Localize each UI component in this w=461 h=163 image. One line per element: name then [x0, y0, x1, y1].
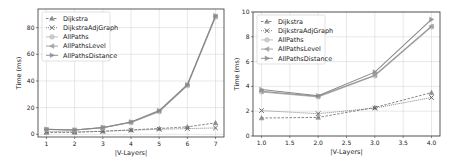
chart-1: 1234567020406080|V-Layers|Time (ms)Dijks…: [15, 9, 224, 157]
x-tick-label: 2: [73, 140, 77, 147]
x-tick-label: 2.5: [342, 139, 352, 146]
x-tick-label: 5: [157, 140, 161, 147]
x-axis-label: |V-Layers|: [330, 148, 362, 156]
y-tick-label: 6: [246, 58, 250, 65]
x-tick-label: 1.5: [285, 139, 295, 146]
legend-label: AllPathsDistance: [278, 55, 332, 63]
x-tick-label: 3: [101, 140, 105, 147]
x-tick-label: 4: [129, 140, 133, 147]
legend-label: Dijkstra: [278, 18, 303, 26]
y-axis-label: Time (ms): [15, 57, 23, 91]
y-tick-label: 0: [246, 132, 250, 139]
y-tick-label: 4: [246, 82, 250, 89]
x-tick-label: 4.0: [427, 139, 437, 146]
x-tick-label: 3.5: [398, 139, 408, 146]
legend-label: AllPathsDistance: [63, 52, 117, 60]
y-tick-label: 8: [246, 33, 250, 40]
legend-label: DijkstraAdjGraph: [278, 27, 333, 35]
x-tick-label: 1: [45, 140, 49, 147]
y-tick-label: 40: [27, 77, 35, 84]
legend-label: DijkstraAdjGraph: [63, 24, 118, 32]
triangle-up-marker-icon: [213, 121, 218, 125]
figure: 1234567020406080|V-Layers|Time (ms)Dijks…: [0, 0, 461, 163]
x-tick-label: 3.0: [370, 139, 380, 146]
x-tick-label: 1.0: [257, 139, 267, 146]
y-tick-label: 60: [27, 50, 35, 57]
legend-label: AllPaths: [63, 33, 89, 41]
legend: DijkstraDijkstraAdjGraphAllPathsAllPaths…: [257, 15, 333, 64]
legend-label: AllPathsLevel: [63, 42, 106, 50]
legend-label: Dijkstra: [63, 15, 88, 23]
y-axis-label: Time (ms): [233, 58, 241, 92]
x-tick-label: 2.0: [313, 139, 323, 146]
y-tick-label: 20: [27, 104, 35, 111]
circle-legend-icon: [50, 35, 55, 40]
y-tick-label: 2: [246, 107, 250, 114]
y-tick-label: 10: [242, 8, 250, 15]
legend-label: AllPaths: [278, 36, 304, 44]
circle-legend-icon: [265, 38, 270, 43]
legend-label: AllPathsLevel: [278, 45, 321, 53]
legend: DijkstraDijkstraAdjGraphAllPathsAllPaths…: [42, 12, 118, 61]
y-tick-label: 80: [27, 24, 35, 31]
chart-2: 1.01.52.02.53.03.54.00246810|V-Layers|Ti…: [233, 8, 440, 156]
x-tick-label: 7: [214, 140, 218, 147]
y-tick-label: 0: [31, 130, 35, 137]
x-tick-label: 6: [185, 140, 189, 147]
triangle-up-marker-icon: [429, 90, 434, 94]
x-axis-label: |V-Layers|: [115, 149, 147, 157]
